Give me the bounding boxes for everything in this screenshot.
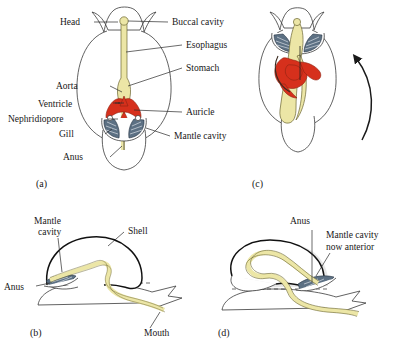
label-stomach: Stomach: [186, 63, 219, 73]
label-esophagus: Esophagus: [186, 40, 227, 50]
label-head: Head: [60, 17, 80, 27]
label-mantle-b-line2: cavity: [38, 227, 61, 237]
panel-letter-c: (c): [252, 178, 263, 190]
label-buccal-cavity: Buccal cavity: [172, 17, 224, 27]
label-anus-d: Anus: [290, 216, 310, 226]
panel-a-buccal-cavity: [120, 17, 128, 25]
label-anus-b: Anus: [4, 282, 24, 292]
panel-letter-a: (a): [36, 178, 47, 190]
label-gill: Gill: [59, 129, 74, 139]
label-aorta: Aorta: [56, 81, 78, 91]
label-anus-a: Anus: [63, 152, 83, 162]
panel-c: (c): [252, 8, 371, 190]
label-mouth: Mouth: [144, 328, 170, 338]
label-mantle-cavity-a: Mantle cavity: [174, 131, 227, 141]
label-ventricle: Ventricle: [38, 99, 72, 109]
label-shell: Shell: [128, 226, 148, 236]
panel-b: Mantle cavity Shell Anus Mouth (b): [4, 216, 182, 339]
panel-d: Anus Mantle cavity now anterior (d): [218, 216, 379, 339]
label-mantle-d-line1: Mantle cavity: [326, 230, 379, 240]
label-mantle-b-line1: Mantle: [34, 216, 61, 226]
label-nephridiopore: Nephridiopore: [8, 114, 63, 124]
label-auricle: Auricle: [186, 107, 215, 117]
rotation-arrow: [356, 58, 371, 140]
torsion-figure: Head Aorta Ventricle Nephridiopore Gill …: [0, 0, 413, 358]
panel-d-labels: Anus Mantle cavity now anterior: [290, 216, 379, 252]
label-mantle-d-line2: now anterior: [326, 242, 375, 252]
panel-letter-b: (b): [30, 327, 42, 339]
panel-letter-d: (d): [218, 327, 230, 339]
panel-a: Head Aorta Ventricle Nephridiopore Gill …: [8, 7, 227, 190]
